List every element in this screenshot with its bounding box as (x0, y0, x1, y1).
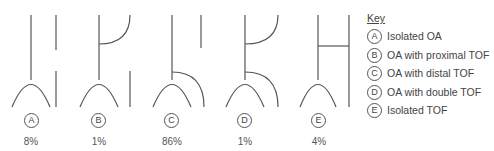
diagram-d-drawing (226, 15, 278, 107)
diagram-b-drawing (80, 15, 130, 107)
legend-label: OA with distal TOF (387, 67, 474, 79)
diagram-b-letter: B (91, 113, 106, 128)
legend-item-d: D OA with double TOF (367, 85, 385, 104)
diagram-c-letter: C (164, 113, 179, 128)
legend-item-b: B OA with proximal TOF (367, 48, 385, 67)
oesophageal-atresia-diagrams (0, 0, 360, 151)
legend-letter: D (367, 85, 382, 100)
diagram-a-drawing (12, 15, 56, 107)
diagram-e-percent: 4% (299, 136, 339, 147)
legend-label: OA with double TOF (387, 86, 481, 98)
diagram-b-percent: 1% (79, 136, 119, 147)
legend: Key A Isolated OA B OA with proximal TOF… (367, 12, 385, 122)
diagram-d-letter: D (237, 113, 252, 128)
legend-item-a: A Isolated OA (367, 29, 385, 48)
legend-label: OA with proximal TOF (387, 49, 489, 61)
legend-item-c: C OA with distal TOF (367, 66, 385, 85)
diagram-d-percent: 1% (225, 136, 265, 147)
legend-letter: E (367, 103, 382, 118)
diagram-e-drawing (300, 15, 349, 107)
legend-label: Isolated OA (387, 30, 442, 42)
legend-item-e: E Isolated TOF (367, 103, 385, 122)
diagram-c-drawing (153, 15, 204, 107)
diagram-c-percent: 86% (152, 136, 192, 147)
diagram-a-percent: 8% (11, 136, 51, 147)
legend-letter: C (367, 66, 382, 81)
legend-title: Key (367, 12, 385, 24)
legend-letter: B (367, 48, 382, 63)
diagram-a-letter: A (24, 113, 39, 128)
legend-letter: A (367, 29, 382, 44)
legend-label: Isolated TOF (387, 104, 447, 116)
diagram-e-letter: E (311, 113, 326, 128)
